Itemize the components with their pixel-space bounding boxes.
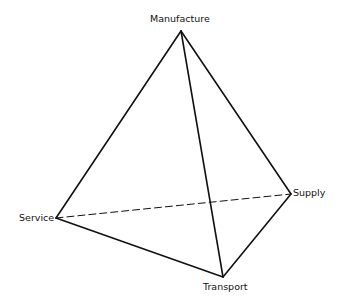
edge-manufacture-transport xyxy=(181,31,223,277)
vertex-label-transport: Transport xyxy=(203,281,248,292)
vertex-label-manufacture: Manufacture xyxy=(150,13,210,24)
vertex-label-supply: Supply xyxy=(293,187,325,198)
tetrahedron-diagram xyxy=(0,0,341,306)
vertex-label-service: Service xyxy=(19,212,54,223)
edge-service-transport xyxy=(56,218,223,277)
edge-service-supply-hidden xyxy=(56,194,291,218)
edge-manufacture-supply xyxy=(181,31,291,194)
edge-supply-transport xyxy=(223,194,291,277)
edge-manufacture-service xyxy=(56,31,181,218)
